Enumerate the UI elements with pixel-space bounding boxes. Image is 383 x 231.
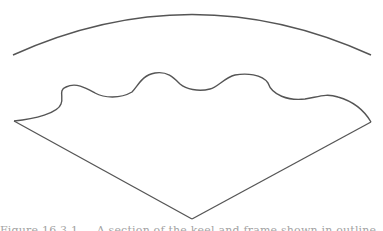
figure: Figure 16.3.1 — A section of the keel an…	[0, 0, 383, 231]
wavy-edge	[14, 73, 371, 122]
figure-caption: Figure 16.3.1 — A section of the keel an…	[0, 224, 383, 231]
sector-diagram	[0, 0, 383, 231]
outer-arc	[13, 15, 371, 56]
right-edge	[192, 122, 371, 219]
caption-text: Figure 16.3.1 — A section of the keel an…	[0, 224, 383, 231]
left-edge	[14, 121, 192, 219]
